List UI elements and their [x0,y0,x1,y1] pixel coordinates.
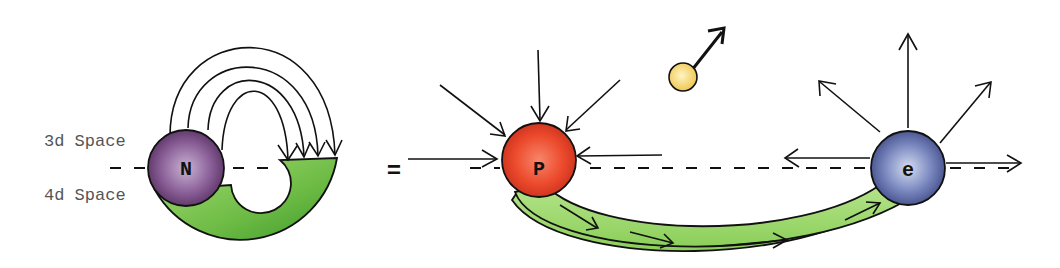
neutron-decay-diagram: 3d Space 4d Space N = [0,0,1060,268]
label-3d-space: 3d Space [44,132,126,151]
neutron-particle: N [148,130,224,206]
label-4d-space: 4d Space [44,186,126,205]
neutron-label: N [180,158,192,181]
proton-label: P [533,158,545,181]
electron-particle: e [871,131,945,205]
electron-label: e [902,159,914,182]
proton-particle: P [502,123,576,197]
neutrino-particle [669,28,724,91]
equals-sign: = [387,158,401,185]
